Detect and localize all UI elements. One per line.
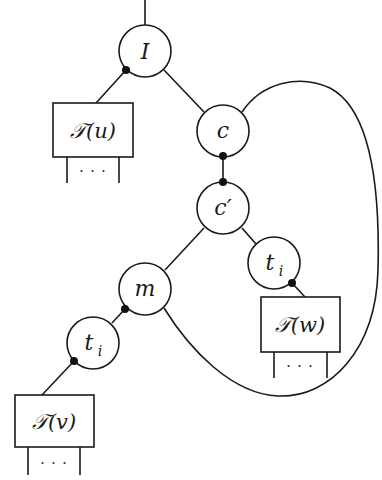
marker-dot-I: [122, 66, 130, 74]
node-Tu-label: 𝒯(u): [70, 119, 116, 143]
node-ti-left-subscript: i: [98, 343, 102, 359]
node-Tw: 𝒯(w) · · ·: [261, 297, 340, 374]
node-ti-right-subscript: i: [279, 263, 283, 279]
node-cprime: c′: [197, 182, 249, 234]
node-cprime-label: c′: [214, 195, 231, 220]
node-Tv-ellipsis: · · ·: [40, 455, 67, 471]
node-ti-left-label: t: [85, 330, 94, 355]
marker-dot-ti-left: [70, 357, 78, 365]
edge-cprime-ti-right: [242, 228, 256, 244]
marker-dot-ti-right: [288, 279, 296, 287]
marker-dot-c-bottom: [219, 152, 227, 160]
node-Tw-ellipsis: · · ·: [286, 358, 313, 374]
tree-diagram: I c c′ m t i t i 𝒯(u) · · · 𝒯(w) · · · 𝒯…: [0, 0, 382, 480]
node-I-label: I: [140, 39, 151, 64]
edge-I-c: [164, 70, 204, 112]
marker-dot-cprime-top: [219, 178, 227, 186]
node-Tv: 𝒯(v) · · ·: [15, 395, 94, 471]
node-Tv-label: 𝒯(v): [32, 410, 76, 434]
edge-ti-left-Tv: [42, 361, 74, 395]
node-Tu-ellipsis: · · ·: [79, 163, 106, 179]
node-Tu: 𝒯(u) · · ·: [53, 103, 133, 179]
edge-I-Tu: [96, 70, 126, 103]
node-c: c: [197, 105, 249, 157]
marker-dot-m: [121, 305, 129, 313]
edge-cprime-m: [165, 228, 204, 270]
node-ti-right-label: t: [266, 250, 275, 275]
node-Tw-label: 𝒯(w): [275, 313, 325, 337]
node-c-label: c: [217, 118, 229, 143]
node-m-label: m: [135, 276, 156, 301]
